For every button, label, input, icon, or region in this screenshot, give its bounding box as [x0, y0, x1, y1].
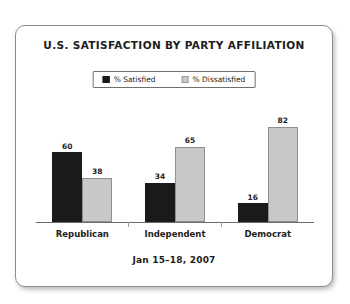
bar-value-democrat-dissatisfied: 82 — [277, 117, 287, 125]
bar-wrap-independent-dissatisfied: 65 — [175, 104, 205, 222]
top-edge-text-remnant — [0, 0, 350, 10]
bar-republican-satisfied — [52, 152, 82, 222]
axis-label-independent: Independent — [129, 229, 222, 239]
legend-label-dissatisfied: % Dissatisfied — [193, 75, 246, 84]
bar-group-democrat: 16 82 — [221, 104, 314, 222]
bar-group-republican: 60 38 — [36, 104, 129, 222]
bar-groups: 60 38 34 65 16 — [36, 104, 314, 222]
legend-label-satisfied: % Satisfied — [114, 75, 156, 84]
plot-area: 60 38 34 65 16 — [36, 104, 314, 222]
bar-value-democrat-satisfied: 16 — [247, 194, 257, 202]
bar-independent-satisfied — [145, 183, 175, 222]
bar-wrap-republican-dissatisfied: 38 — [82, 104, 112, 222]
bar-group-independent: 34 65 — [129, 104, 222, 222]
legend-swatch-dark-icon — [103, 76, 110, 83]
chart-card: U.S. SATISFACTION BY PARTY AFFILIATION %… — [15, 25, 333, 287]
chart-date-caption: Jan 15–18, 2007 — [16, 255, 332, 265]
bar-democrat-satisfied — [238, 203, 268, 222]
axis-label-republican: Republican — [36, 229, 129, 239]
legend-item-dissatisfied: % Dissatisfied — [182, 75, 246, 84]
x-axis-labels: Republican Independent Democrat — [36, 229, 314, 239]
axis-tick-1 — [128, 222, 129, 227]
bar-democrat-dissatisfied — [268, 127, 298, 222]
x-axis-line — [36, 222, 314, 223]
axis-label-democrat: Democrat — [221, 229, 314, 239]
bar-independent-dissatisfied — [175, 147, 205, 222]
bar-value-republican-satisfied: 60 — [62, 143, 72, 151]
chart-legend: % Satisfied % Dissatisfied — [93, 71, 256, 88]
bar-value-republican-dissatisfied: 38 — [92, 168, 102, 176]
axis-tick-2 — [221, 222, 222, 227]
bar-republican-dissatisfied — [82, 178, 112, 222]
chart-title: U.S. SATISFACTION BY PARTY AFFILIATION — [16, 39, 332, 51]
legend-swatch-light-icon — [182, 76, 189, 83]
bar-value-independent-satisfied: 34 — [155, 173, 165, 181]
bar-value-independent-dissatisfied: 65 — [185, 137, 195, 145]
bar-wrap-democrat-satisfied: 16 — [238, 104, 268, 222]
bar-wrap-independent-satisfied: 34 — [145, 104, 175, 222]
bar-wrap-democrat-dissatisfied: 82 — [268, 104, 298, 222]
bar-wrap-republican-satisfied: 60 — [52, 104, 82, 222]
legend-item-satisfied: % Satisfied — [103, 75, 156, 84]
